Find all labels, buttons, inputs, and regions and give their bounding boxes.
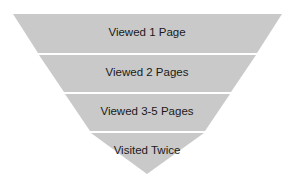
funnel-stage-4-label: Visited Twice	[0, 144, 294, 156]
funnel-stage-1-label: Viewed 1 Page	[0, 26, 294, 38]
funnel-stage-2-label: Viewed 2 Pages	[0, 66, 294, 78]
funnel-stage-3-label: Viewed 3-5 Pages	[0, 105, 294, 117]
